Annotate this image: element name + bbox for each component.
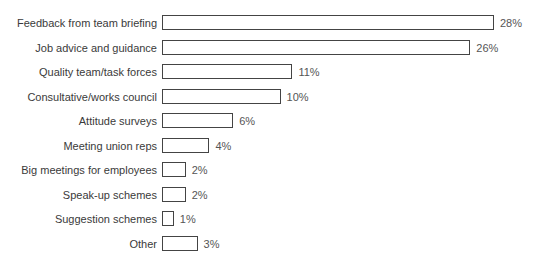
category-label: Quality team/task forces bbox=[39, 63, 157, 81]
bar-row: Meeting union reps4% bbox=[0, 137, 537, 155]
value-label: 6% bbox=[239, 112, 255, 130]
category-label: Big meetings for employees bbox=[21, 161, 157, 179]
value-label: 2% bbox=[192, 186, 208, 204]
category-label: Suggestion schemes bbox=[55, 210, 157, 228]
bar-row: Suggestion schemes1% bbox=[0, 210, 537, 228]
bar bbox=[162, 40, 470, 55]
bar bbox=[162, 236, 198, 251]
bar-row: Big meetings for employees2% bbox=[0, 161, 537, 179]
category-label: Other bbox=[129, 235, 157, 253]
bar-row: Job advice and guidance26% bbox=[0, 39, 537, 57]
value-label: 11% bbox=[298, 63, 319, 81]
value-label: 28% bbox=[500, 14, 522, 32]
value-label: 1% bbox=[180, 210, 196, 228]
bar bbox=[162, 113, 233, 128]
category-label: Attitude surveys bbox=[79, 112, 157, 130]
category-label: Speak-up schemes bbox=[63, 186, 157, 204]
bar-row: Speak-up schemes2% bbox=[0, 186, 537, 204]
bar-row: Feedback from team briefing28% bbox=[0, 14, 537, 32]
bar bbox=[162, 138, 209, 153]
bar bbox=[162, 15, 494, 30]
value-label: 26% bbox=[476, 39, 498, 57]
bar-row: Attitude surveys6% bbox=[0, 112, 537, 130]
bar bbox=[162, 211, 174, 226]
bar-row: Other3% bbox=[0, 235, 537, 253]
category-label: Consultative/works council bbox=[27, 88, 157, 106]
category-label: Meeting union reps bbox=[63, 137, 157, 155]
bar bbox=[162, 187, 186, 202]
value-label: 2% bbox=[192, 161, 208, 179]
category-label: Feedback from team briefing bbox=[17, 14, 157, 32]
bar bbox=[162, 162, 186, 177]
value-label: 3% bbox=[204, 235, 220, 253]
bar bbox=[162, 64, 292, 79]
bar-row: Consultative/works council10% bbox=[0, 88, 537, 106]
bar bbox=[162, 89, 281, 104]
value-label: 4% bbox=[215, 137, 231, 155]
bar-row: Quality team/task forces11% bbox=[0, 63, 537, 81]
value-label: 10% bbox=[287, 88, 309, 106]
category-label: Job advice and guidance bbox=[35, 39, 157, 57]
